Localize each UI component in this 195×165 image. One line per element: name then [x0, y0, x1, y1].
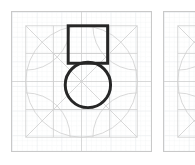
glyph-construction-panel-primary[interactable]: [11, 11, 152, 152]
glyph-construction-canvas: [0, 0, 195, 165]
glyph-construction-panel-secondary[interactable]: [163, 11, 195, 152]
glyph-circle-shape: [65, 62, 110, 107]
glyph-square-shape: [68, 26, 107, 63]
construction-guides-secondary: [164, 12, 195, 151]
glyph-shapes: [12, 12, 151, 151]
